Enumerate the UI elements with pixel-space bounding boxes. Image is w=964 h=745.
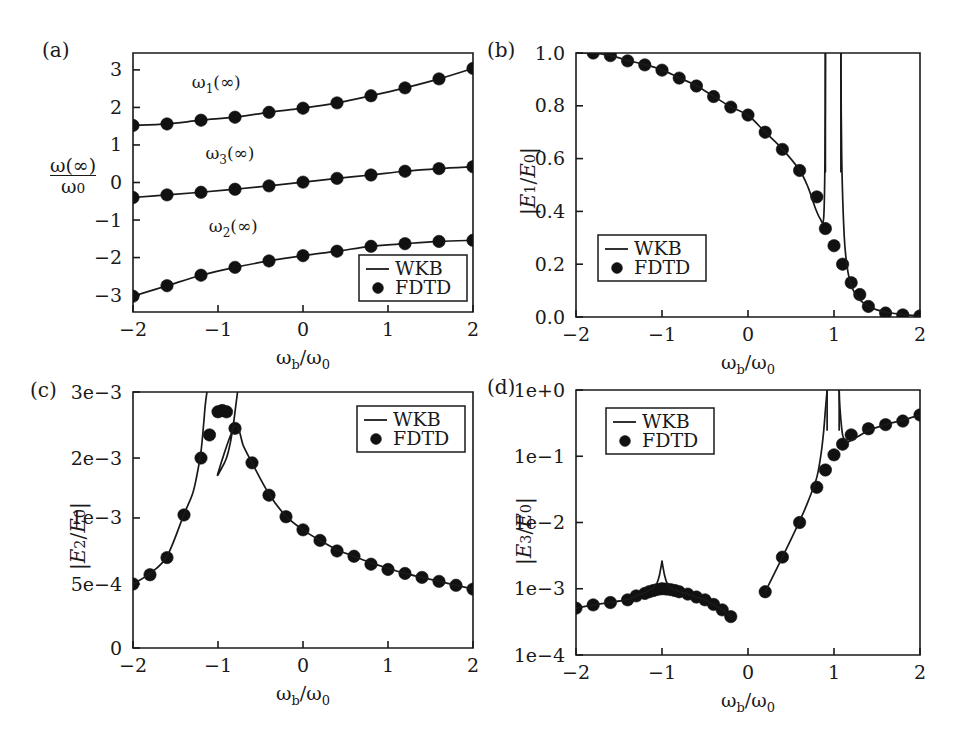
data-point-c-0-8	[220, 406, 232, 418]
data-point-a-1-0	[127, 191, 139, 203]
legend-b[interactable]: WKBFDTD	[598, 235, 706, 281]
data-point-c-0-9	[229, 422, 241, 434]
data-point-a-0-0	[127, 119, 139, 131]
data-point-b-0-6	[690, 80, 702, 92]
legend-d[interactable]: WKBFDTD	[606, 408, 714, 454]
data-point-a-1-9	[433, 162, 445, 174]
x-tick-label-d-0: −2	[562, 661, 590, 683]
data-point-b-0-16	[836, 258, 848, 270]
data-point-d-0-26	[836, 438, 848, 450]
data-point-c-0-6	[212, 406, 224, 418]
data-point-c-0-10	[246, 457, 258, 469]
ylabel-numerator-a: ω(∞)	[50, 155, 96, 175]
data-point-b-0-12	[793, 164, 805, 176]
data-point-c-0-21	[433, 575, 445, 587]
panel-d: 1e+01e−11e−21e−31e−4−2−1012ωb/ω0WKBFDTD	[0, 0, 964, 745]
data-point-b-0-3	[639, 59, 651, 71]
data-point-d-0-28	[862, 423, 874, 435]
panel-c: 3e−32e−31e−35e−40−2−1012ωb/ω0WKBFDTD	[0, 0, 964, 745]
y-tick-label-b-4: 0.2	[535, 253, 565, 275]
y-tick-label-d-4: 1e−4	[514, 644, 565, 666]
data-point-c-0-13	[297, 524, 309, 536]
data-point-b-0-15	[828, 240, 840, 252]
legend-dot-swatch-d	[620, 436, 631, 447]
y-axis-title-d: |E3/E0|	[512, 497, 536, 565]
series-line-a-1	[133, 167, 473, 198]
x-tick-label-c-0: −2	[119, 654, 147, 676]
x-tick-label-a-3: 1	[382, 318, 394, 340]
plot-area-a	[127, 62, 479, 302]
data-point-d-0-16	[699, 594, 711, 606]
data-point-a-1-8	[399, 165, 411, 177]
data-point-d-0-5	[639, 587, 651, 599]
data-point-c-0-23	[467, 583, 479, 595]
panel-a: 3210−1−2−3−2−1012ωb/ω0ω1(∞)ω3(∞)ω2(∞)WKB…	[0, 0, 964, 745]
data-point-b-0-22	[914, 310, 926, 322]
series-line-d-2	[662, 561, 731, 616]
x-tick-label-b-0: −2	[562, 323, 590, 345]
data-point-d-0-4	[630, 590, 642, 602]
data-point-c-0-11	[263, 489, 275, 501]
data-point-a-2-5	[297, 249, 309, 261]
svg-text:ωb/ω0: ωb/ω0	[721, 689, 775, 715]
plot-frame-c	[133, 392, 473, 648]
data-point-b-0-9	[742, 109, 754, 121]
panel-letter-d: (d)	[487, 375, 515, 399]
data-point-d-0-1	[587, 599, 599, 611]
data-point-c-0-19	[399, 567, 411, 579]
data-point-c-0-22	[450, 579, 462, 591]
data-point-c-0-20	[416, 571, 428, 583]
curve-annotation-a-0: ω1(∞)	[192, 72, 241, 96]
data-point-b-0-11	[776, 143, 788, 155]
figure-root: 3210−1−2−3−2−1012ωb/ω0ω1(∞)ω3(∞)ω2(∞)WKB…	[0, 0, 964, 745]
legend-a[interactable]: WKBFDTD	[359, 255, 467, 301]
data-point-a-2-6	[331, 245, 343, 257]
data-point-a-0-3	[229, 111, 241, 123]
data-point-c-0-0	[127, 578, 139, 590]
x-tick-label-c-2: 0	[297, 654, 309, 676]
panel-b: 1.00.80.60.40.20.0−2−1012ωb/ω0WKBFDTD	[0, 0, 964, 745]
data-point-d-0-20	[759, 586, 771, 598]
y-tick-label-b-1: 0.8	[535, 94, 565, 116]
data-point-d-0-8	[652, 583, 664, 595]
data-point-a-2-2	[195, 269, 207, 281]
data-point-b-0-21	[897, 309, 909, 321]
x-tick-label-d-2: 0	[742, 661, 754, 683]
data-point-b-0-7	[707, 90, 719, 102]
data-point-d-0-6	[643, 586, 655, 598]
data-point-b-0-17	[845, 276, 857, 288]
x-axis-title-b: ωb/ω0	[721, 351, 775, 377]
series-line-d-4	[839, 390, 920, 442]
y-tick-label-a-6: −3	[94, 284, 122, 306]
x-tick-label-a-4: 2	[467, 318, 479, 340]
x-tick-label-d-1: −1	[648, 661, 676, 683]
y-tick-label-c-4: 0	[110, 637, 122, 659]
data-point-c-0-16	[348, 550, 360, 562]
y-axis-title-b: |E1/E0|	[516, 147, 540, 215]
data-point-d-0-19	[725, 610, 737, 622]
data-point-d-0-10	[660, 583, 672, 595]
plot-frame-b	[576, 53, 920, 317]
y-tick-label-a-2: 1	[110, 133, 122, 155]
data-point-d-0-15	[690, 591, 702, 603]
data-point-a-2-10	[467, 234, 479, 246]
data-point-d-0-21	[776, 551, 788, 563]
panel-letter-a: (a)	[42, 38, 70, 62]
svg-text:ωb/ω0: ωb/ω0	[721, 351, 775, 377]
data-point-a-2-1	[161, 280, 173, 292]
data-point-b-0-8	[725, 101, 737, 113]
legend-label-wkb-a: WKB	[395, 257, 443, 279]
data-point-c-0-3	[178, 509, 190, 521]
data-point-b-0-0	[587, 47, 599, 59]
x-axis-title-a: ωb/ω0	[276, 346, 330, 372]
data-point-a-0-8	[399, 82, 411, 94]
data-point-b-0-10	[759, 126, 771, 138]
legend-c[interactable]: WKBFDTD	[357, 406, 465, 452]
plot-area-d	[570, 390, 926, 623]
data-point-a-2-9	[433, 235, 445, 247]
data-point-a-0-1	[161, 118, 173, 130]
legend-label-wkb-d: WKB	[642, 410, 690, 432]
series-line-a-2	[133, 240, 473, 296]
series-line-c-2	[217, 392, 473, 589]
plot-frame-d	[576, 390, 920, 655]
